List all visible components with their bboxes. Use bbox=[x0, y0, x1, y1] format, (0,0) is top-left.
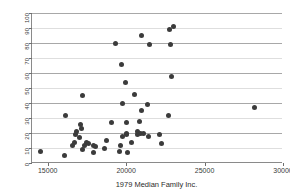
data-point bbox=[63, 113, 68, 118]
plot-area: 0102030405060708090100 15000200002500030… bbox=[31, 13, 282, 163]
data-point bbox=[113, 41, 118, 46]
y-tick-label: 30 bbox=[24, 118, 30, 125]
data-point bbox=[93, 144, 98, 149]
data-point bbox=[147, 42, 152, 47]
y-tick-label: 50 bbox=[24, 88, 30, 95]
data-point bbox=[169, 74, 174, 79]
data-point bbox=[146, 134, 151, 139]
data-point bbox=[125, 150, 130, 155]
x-axis-title: 1979 Median Family Inc. bbox=[31, 180, 282, 190]
scatter-chart-figure: 0102030405060708090100 15000200002500030… bbox=[0, 0, 290, 195]
x-tick-label: 25000 bbox=[195, 167, 214, 174]
data-point bbox=[168, 42, 173, 47]
data-point bbox=[80, 147, 85, 152]
x-tick-label: 30000 bbox=[273, 167, 290, 174]
data-point bbox=[132, 92, 137, 97]
y-axis-title: % homes cost $100K+ bbox=[2, 0, 12, 33]
data-point bbox=[124, 120, 129, 125]
y-tick-label: 10 bbox=[24, 148, 30, 155]
data-point bbox=[118, 143, 123, 148]
y-tick-label: 40 bbox=[24, 103, 30, 110]
data-point bbox=[86, 141, 91, 146]
data-point bbox=[102, 146, 107, 151]
x-tick-label: 15000 bbox=[38, 167, 57, 174]
data-point bbox=[145, 102, 150, 107]
gridline-y-10 bbox=[32, 148, 282, 149]
y-tick-label: 60 bbox=[24, 73, 30, 80]
y-tick-label: 80 bbox=[24, 43, 30, 50]
x-tick-mark bbox=[283, 163, 284, 166]
y-tick-label: 90 bbox=[24, 28, 30, 35]
data-point bbox=[117, 149, 122, 154]
data-point bbox=[159, 141, 164, 146]
data-point bbox=[123, 80, 128, 85]
data-point bbox=[109, 120, 114, 125]
gridline-y-40 bbox=[32, 103, 282, 104]
y-tick-label: 0 bbox=[24, 163, 30, 166]
gridline-y-60 bbox=[32, 73, 282, 74]
y-tick-label: 70 bbox=[24, 58, 30, 65]
x-tick-mark bbox=[205, 163, 206, 166]
data-point bbox=[104, 138, 109, 143]
data-point bbox=[137, 119, 142, 124]
gridline-y-90 bbox=[32, 28, 282, 29]
data-point bbox=[252, 105, 257, 110]
y-tick-label: 20 bbox=[24, 133, 30, 140]
data-point bbox=[124, 132, 129, 137]
data-point bbox=[139, 33, 144, 38]
data-point bbox=[80, 93, 85, 98]
data-point bbox=[139, 108, 144, 113]
x-tick-mark bbox=[126, 163, 127, 166]
gridline-y-30 bbox=[32, 118, 282, 119]
data-point bbox=[166, 113, 171, 118]
x-tick-mark bbox=[48, 163, 49, 166]
data-point bbox=[62, 153, 67, 158]
data-point bbox=[91, 150, 96, 155]
x-tick-label: 20000 bbox=[116, 167, 135, 174]
gridline-y-80 bbox=[32, 43, 282, 44]
y-tick-label: 100 bbox=[24, 13, 30, 23]
data-point bbox=[79, 126, 84, 131]
data-point bbox=[129, 140, 134, 145]
data-point bbox=[72, 140, 77, 145]
data-point bbox=[120, 101, 125, 106]
gridline-y-70 bbox=[32, 58, 282, 59]
gridline-y-50 bbox=[32, 88, 282, 89]
data-point bbox=[38, 149, 43, 154]
data-point bbox=[119, 62, 124, 67]
data-point bbox=[157, 132, 162, 137]
gridline-y-100 bbox=[32, 13, 282, 14]
data-point bbox=[77, 135, 82, 140]
